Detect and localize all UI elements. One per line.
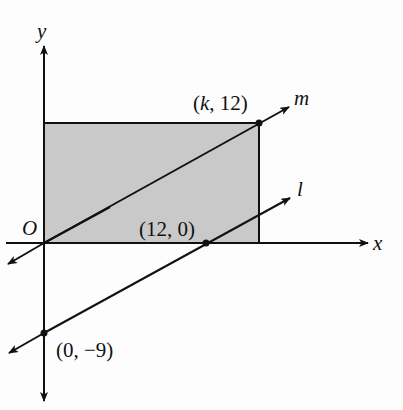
coordinate-diagram: y x O m l (k, 12) (12, 0) (0, −9) (0, 0, 403, 410)
point-12-0 (203, 240, 210, 247)
line-l-lower (9, 333, 44, 353)
origin-label: O (22, 216, 37, 240)
point-k-12-label: (k, 12) (193, 91, 248, 115)
x-axis-label: x (372, 231, 383, 255)
y-axis-label: y (35, 19, 47, 43)
point-0-neg9 (41, 330, 48, 337)
point-12-0-label: (12, 0) (139, 217, 195, 241)
point-k-12 (256, 120, 263, 127)
line-l-label: l (297, 177, 303, 201)
point-0-neg9-label: (0, −9) (56, 338, 113, 362)
line-m-lower (8, 243, 44, 264)
line-m-label: m (294, 86, 309, 110)
